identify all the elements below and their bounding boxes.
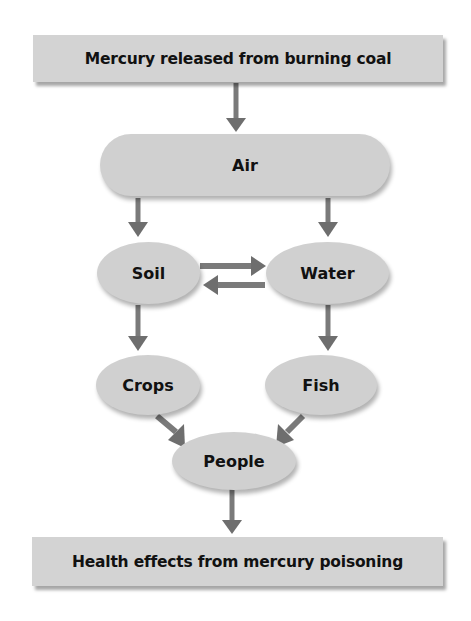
crops-node: Crops	[96, 355, 200, 415]
arrow-air-to-soil	[128, 198, 148, 237]
mercury-flow-diagram: Mercury released from burning coal Air S…	[0, 0, 471, 621]
fish-node: Fish	[265, 355, 377, 415]
arrow-soil-to-crops	[128, 305, 148, 351]
source-box: Mercury released from burning coal	[33, 35, 443, 82]
soil-label: Soil	[132, 264, 165, 283]
arrow-soil-to-water	[200, 256, 266, 276]
water-label: Water	[300, 264, 354, 283]
arrow-source-to-air	[226, 83, 246, 132]
air-label: Air	[232, 156, 258, 175]
arrow-crops-to-people	[157, 416, 185, 448]
arrows-layer	[0, 0, 471, 621]
arrow-air-to-water	[318, 198, 338, 237]
source-label: Mercury released from burning coal	[85, 50, 392, 68]
outcome-label: Health effects from mercury poisoning	[72, 553, 403, 571]
people-label: People	[203, 452, 264, 471]
outcome-box: Health effects from mercury poisoning	[32, 537, 443, 586]
crops-label: Crops	[122, 376, 174, 395]
arrow-water-to-fish	[318, 305, 338, 351]
water-node: Water	[266, 242, 389, 304]
arrow-water-to-soil	[203, 275, 265, 295]
fish-label: Fish	[302, 376, 339, 395]
people-node: People	[172, 432, 296, 490]
soil-node: Soil	[97, 242, 200, 304]
air-node: Air	[100, 134, 390, 196]
